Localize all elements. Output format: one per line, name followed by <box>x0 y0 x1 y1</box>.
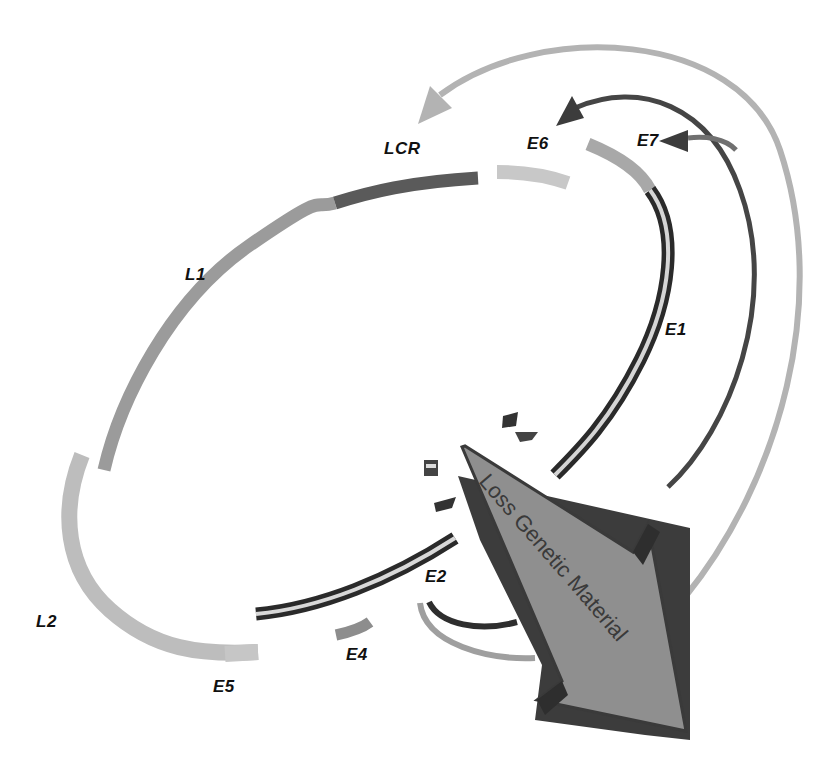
e6-segment <box>497 172 568 183</box>
e1-highlight <box>555 190 668 475</box>
label-lcr: LCR <box>384 139 420 159</box>
dark-arrowhead <box>556 96 584 126</box>
label-e4: E4 <box>346 645 368 665</box>
label-l1: L1 <box>185 265 206 285</box>
label-e6: E6 <box>527 134 549 154</box>
e4-segment <box>336 622 370 635</box>
e7-branch-arrowhead <box>659 130 688 152</box>
e2-dark-arc <box>429 602 517 626</box>
label-l2: L2 <box>36 612 57 632</box>
l1-segment <box>104 203 335 470</box>
loss-genetic-material-arrow: Loss Genetic Material <box>458 446 690 740</box>
e7-branch-arrow <box>688 137 736 150</box>
label-e5: E5 <box>213 677 235 697</box>
diagram-svg: Loss Genetic Material <box>0 0 839 759</box>
label-e1: E1 <box>665 320 687 340</box>
label-e7: E7 <box>637 131 659 151</box>
lcr-segment <box>335 178 478 203</box>
e5-segment <box>225 652 258 654</box>
hpv-genome-diagram: Loss Genetic Material LCR E6 E7 E1 L1 L2… <box>0 0 839 759</box>
l2-segment <box>69 455 258 653</box>
label-e2: E2 <box>425 567 447 587</box>
